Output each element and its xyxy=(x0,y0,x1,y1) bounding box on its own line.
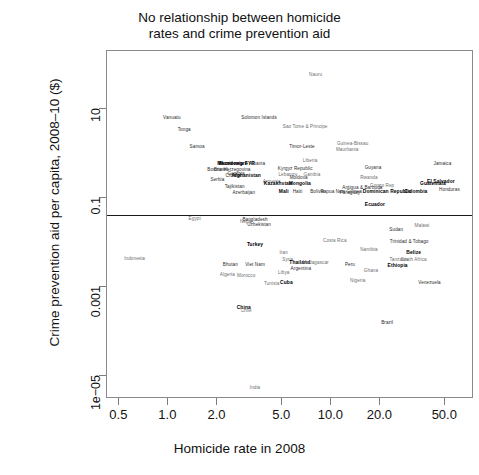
point-label: Tonga xyxy=(178,126,191,131)
x-axis-tick xyxy=(118,398,119,405)
point-label: Malawi xyxy=(415,223,430,228)
point-label: Costa Rica xyxy=(323,237,346,242)
x-axis-tick-label: 20.0 xyxy=(367,407,392,422)
point-label: Sao Tome & Principe xyxy=(283,123,328,128)
point-label: Madagascar xyxy=(302,259,328,264)
y-axis-tick-label: 10 xyxy=(89,108,103,122)
point-label: Nepal xyxy=(240,219,253,224)
point-label: Mauritania xyxy=(336,147,358,152)
x-axis-tick-label: 1.0 xyxy=(158,407,176,422)
point-label: Azerbaijan xyxy=(232,190,255,195)
y-axis-tick-label: 1e−05 xyxy=(89,375,103,410)
point-label: Timor-Leste xyxy=(289,143,314,148)
point-label: Tajikistan xyxy=(225,184,245,189)
point-label: Iran xyxy=(280,250,288,255)
x-axis-tick-label: 0.5 xyxy=(109,407,127,422)
chart-title: No relationship between homicide rates a… xyxy=(0,10,479,42)
point-label: Turkey xyxy=(247,242,263,247)
point-label: Ghana xyxy=(364,267,378,272)
y-axis-title: Crime prevention aid per capita, 2008–10… xyxy=(47,53,62,373)
point-label: Kyrgyz Republic xyxy=(278,165,313,170)
x-axis-title: Homicide rate in 2008 xyxy=(0,441,479,456)
point-label: Colombia xyxy=(404,188,427,193)
point-label: Nigeria xyxy=(350,278,365,283)
point-label: Congo Rep xyxy=(370,183,394,188)
point-label: Afghanistan xyxy=(231,172,260,177)
point-label: Ethiopia xyxy=(388,262,408,267)
plot-area: NauruVanuatuTongaSamoaSolomon IslandsSao… xyxy=(106,50,473,398)
point-label: Argentina xyxy=(291,266,312,271)
chart-canvas: No relationship between homicide rates a… xyxy=(0,0,479,475)
point-label: Mali xyxy=(279,188,289,193)
point-label: Namibia xyxy=(360,246,378,251)
x-axis-tick-label: 10.0 xyxy=(318,407,343,422)
x-axis-tick xyxy=(330,398,331,405)
point-label: Guinea-Bissau xyxy=(337,141,368,146)
point-label: Peru xyxy=(345,262,355,267)
point-label: Serbia xyxy=(211,176,225,181)
point-label: Ecuador xyxy=(365,202,385,207)
point-label: Viet Nam xyxy=(245,261,265,266)
point-label: Guatemala xyxy=(420,181,446,186)
point-label: South Africa xyxy=(401,257,427,262)
point-label: Mongolia xyxy=(289,181,311,186)
point-label: Indonesia xyxy=(124,255,145,260)
point-label: Venezuela xyxy=(418,279,440,284)
point-label: Libya xyxy=(278,269,289,274)
point-label: Belize xyxy=(406,250,421,255)
x-axis-tick xyxy=(379,398,380,405)
chart-title-line-2: rates and crime prevention aid xyxy=(0,26,479,42)
x-axis-tick-label: 5.0 xyxy=(272,407,290,422)
x-axis-tick xyxy=(444,398,445,405)
point-label: Chile xyxy=(241,308,252,313)
point-label: Moldova xyxy=(290,174,308,179)
point-label: Sudan xyxy=(389,226,403,231)
point-label: Morocco xyxy=(237,273,255,278)
point-label: Rwanda xyxy=(360,175,377,180)
x-axis-tick xyxy=(281,398,282,405)
point-label: Liberia xyxy=(303,157,318,162)
point-label: Solomon Islands xyxy=(241,115,276,120)
y-axis-tick-label: 0.001 xyxy=(89,286,103,317)
point-label: India xyxy=(250,385,260,390)
point-label: Brazil xyxy=(381,320,393,325)
point-label: Cuba xyxy=(280,279,293,284)
x-axis-tick-label: 2.0 xyxy=(207,407,225,422)
point-label: Montenegro xyxy=(219,160,248,165)
point-label: Samoa xyxy=(190,144,205,149)
point-label: Brunei xyxy=(214,167,228,172)
point-label: Haiti xyxy=(293,188,303,193)
chart-title-line-1: No relationship between homicide xyxy=(0,10,479,26)
x-axis-tick xyxy=(216,398,217,405)
x-axis-tick-label: 50.0 xyxy=(432,407,457,422)
point-label: Egypt xyxy=(189,216,201,221)
point-label: Albania xyxy=(249,160,265,165)
regression-line xyxy=(107,215,473,216)
point-label: Guyana xyxy=(365,164,382,169)
point-label: Jamaica xyxy=(434,160,452,165)
point-label: Tunisia xyxy=(264,281,279,286)
point-label: Paraguay xyxy=(340,190,360,195)
x-axis-tick xyxy=(167,398,168,405)
point-label: Nauru xyxy=(309,72,322,77)
y-axis-tick-label: 0.1 xyxy=(89,197,103,214)
point-label: Vanuatu xyxy=(163,115,180,120)
point-label: Algeria xyxy=(220,272,235,277)
point-label: Bhutan xyxy=(223,262,238,267)
point-label: Honduras xyxy=(439,186,460,191)
point-label: Trinidad & Tobago xyxy=(390,239,429,244)
